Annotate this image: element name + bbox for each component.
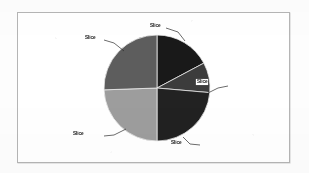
pie-slice-label-4: Slice xyxy=(72,131,85,137)
pie-chart-frame[interactable]: Slice Slice Slice Slice Slice xyxy=(17,12,290,163)
pie-slice-label-5: Slice xyxy=(84,35,97,41)
leader-line-slice-2 xyxy=(208,86,228,93)
leader-line-slice-4 xyxy=(104,129,126,136)
pie-chart-svg[interactable] xyxy=(18,13,291,164)
pie-slice-5[interactable] xyxy=(104,35,157,90)
pie-slice-3[interactable] xyxy=(157,88,210,141)
pie-slice-label-2: Slice xyxy=(196,79,209,85)
plot-area: Slice Slice Slice Slice Slice xyxy=(18,13,289,162)
pie-slice-label-3: Slice xyxy=(170,140,183,146)
pie-slice-group xyxy=(104,35,210,141)
pie-slice-4[interactable] xyxy=(104,88,157,141)
pie-slice-label-1: Slice xyxy=(149,23,162,29)
screenshot-canvas: Slice Slice Slice Slice Slice xyxy=(0,0,309,173)
leader-line-slice-3 xyxy=(183,137,200,145)
